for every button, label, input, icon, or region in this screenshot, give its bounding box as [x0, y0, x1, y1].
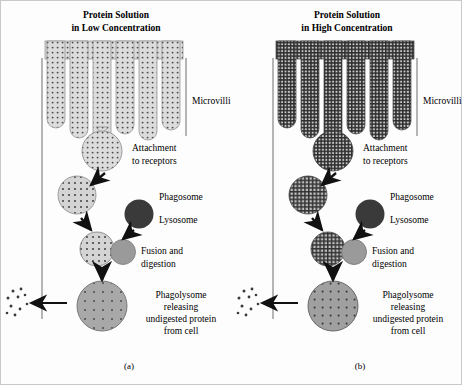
panel-b-arrow-lysosome-to-fusion	[354, 230, 365, 239]
panel-a-title-line1: Protein Solution	[83, 10, 150, 20]
panel-b-lysosome	[356, 200, 385, 229]
panel-b-fusion-phagosome	[311, 232, 345, 266]
panel-a-label-fusion-line1: Fusion and	[141, 246, 183, 256]
panel-b-label-release-line2: releasing	[391, 302, 426, 312]
panel-a-attachment-vesicle	[82, 131, 122, 171]
panel-a-arrow-attach-to-phagosome	[91, 173, 105, 185]
panel-a-label-release-line3: undigested protein	[146, 314, 217, 324]
panel-a-label-lysosome: Lysosome	[159, 215, 198, 225]
panel-a: Protein Solution in Low Concentration	[1, 1, 232, 385]
panel-b-arrow-attach-to-phagosome	[322, 173, 336, 185]
panel-b-label-microvilli: Microvilli	[423, 96, 462, 106]
panel-a-label-release-line2: releasing	[164, 302, 199, 312]
panel-b-caption: (b)	[355, 361, 366, 371]
panel-a-label-microvilli: Microvilli	[192, 96, 231, 106]
panel-b-microvilli	[276, 41, 414, 142]
panel-a-released-particles	[6, 288, 29, 317]
panel-a-arrow-phagosome-to-fusion	[81, 218, 91, 230]
panel-a-title-line2: in Low Concentration	[71, 23, 161, 33]
panel-a-microvilli	[45, 41, 183, 142]
panel-b-attachment-vesicle	[313, 131, 353, 171]
panel-b-label-lysosome: Lysosome	[390, 215, 429, 225]
panel-a-label-attachment-line1: Attachment	[132, 143, 177, 153]
figure-container: Protein Solution in Low Concentration	[0, 0, 462, 385]
panel-a-phagosome	[58, 176, 96, 214]
panel-a-fusion-phagosome	[80, 232, 114, 266]
panel-a-label-release-line1: Phagolysome	[155, 290, 206, 300]
panel-b-title-line2: in High Concentration	[301, 23, 393, 33]
panel-a-fusion-lysosome	[111, 240, 136, 265]
panel-a-lysosome	[125, 200, 154, 229]
panel-b-title-line1: Protein Solution	[314, 10, 381, 20]
panel-b-label-fusion-line2: digestion	[372, 259, 407, 269]
panel-b-label-attachment-line1: Attachment	[363, 143, 408, 153]
panel-a-arrow-lysosome-to-fusion	[123, 230, 134, 239]
panel-b-phagosome	[289, 176, 327, 214]
panel-a-label-phagosome: Phagosome	[159, 192, 203, 202]
panel-a-caption: (a)	[124, 361, 134, 371]
panel-b-label-phagosome: Phagosome	[390, 192, 434, 202]
panel-b-released-particles	[237, 288, 260, 317]
panel-a-label-attachment-line2: to receptors	[132, 156, 177, 166]
panel-b-label-attachment-line2: to receptors	[363, 156, 408, 166]
panel-b-label-release-line1: Phagolysome	[382, 290, 433, 300]
panel-b-label-fusion-line1: Fusion and	[372, 246, 414, 256]
panel-a-phagolysosome	[77, 281, 127, 331]
panel-b-label-release-line3: undigested protein	[373, 314, 444, 324]
panel-a-label-release-line4: from cell	[164, 326, 199, 336]
panel-b-label-release-line4: from cell	[391, 326, 426, 336]
panel-b-arrow-phagosome-to-fusion	[312, 218, 322, 230]
panel-b-fusion-lysosome	[342, 240, 367, 265]
panel-b-phagolysosome	[308, 281, 358, 331]
panel-b: Protein Solution in High Concentration	[232, 1, 462, 385]
panel-a-label-fusion-line2: digestion	[141, 259, 176, 269]
